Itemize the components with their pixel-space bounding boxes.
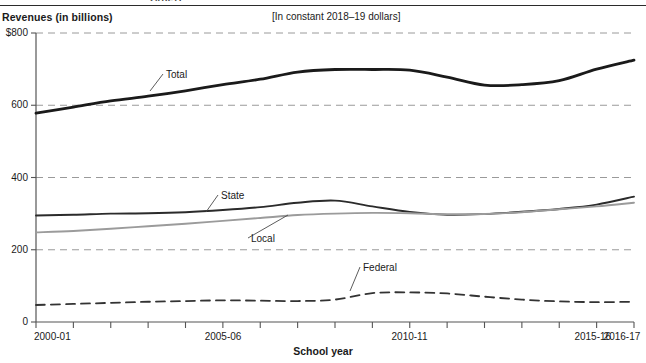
y-axis-title: Revenues (in billions) — [2, 11, 113, 23]
chart-figure: 2016-17 Revenues (in billions) [In const… — [0, 0, 646, 363]
chart-subtitle: [In constant 2018–19 dollars] — [272, 11, 400, 22]
y-tick-label: 200 — [0, 245, 28, 255]
x-tick-label: 2016-17 — [604, 332, 641, 342]
x-tick-label: 2010-11 — [392, 332, 428, 342]
clipped-header-text: 2016-17 — [150, 0, 183, 1]
y-tick-label: $800 — [0, 28, 28, 38]
series-line-federal — [36, 292, 634, 305]
series-label-state: State — [221, 191, 244, 201]
y-tick-label: 400 — [0, 173, 28, 183]
y-tick-label: 600 — [0, 100, 28, 110]
annotation-leader-line — [206, 195, 218, 212]
series-line-local — [36, 203, 634, 233]
x-tick-label: 2005-06 — [205, 332, 242, 342]
series-label-total: Total — [166, 70, 187, 80]
series-label-local: Local — [251, 234, 275, 244]
annotation-leader-line — [150, 74, 163, 91]
series-label-federal: Federal — [363, 263, 397, 273]
header-rule — [0, 5, 646, 6]
plot-area — [0, 0, 646, 363]
annotation-leader-line — [350, 267, 360, 291]
x-tick-label: 2000-01 — [34, 332, 71, 342]
x-axis-title: School year — [0, 345, 646, 357]
y-tick-label: 0 — [0, 317, 28, 327]
series-line-state — [36, 197, 634, 216]
